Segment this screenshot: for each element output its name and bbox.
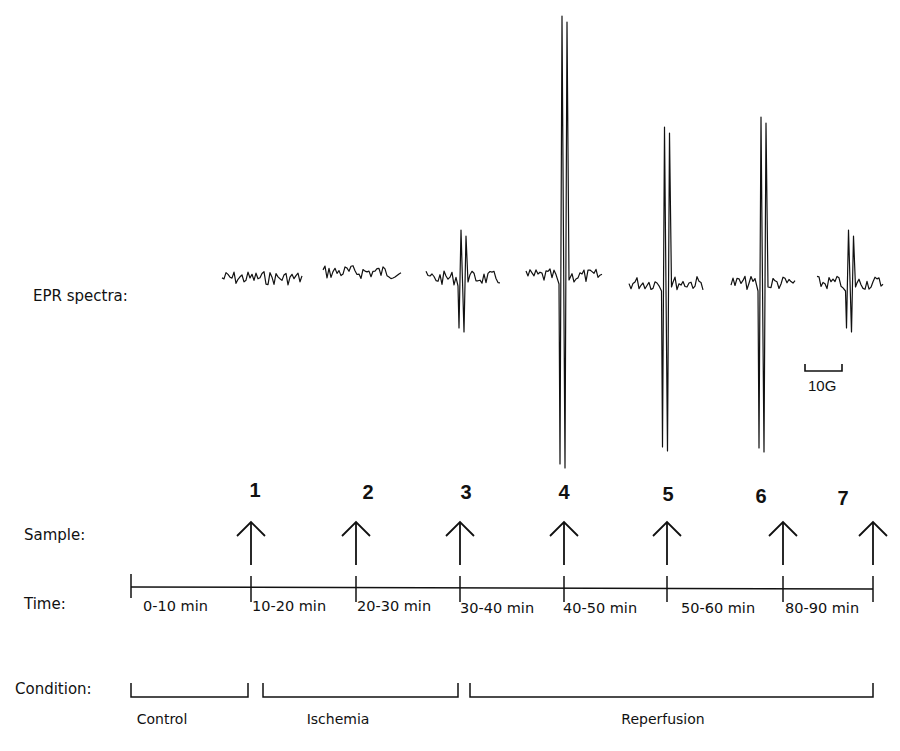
arrow-up-icon — [769, 522, 797, 565]
arrow-up-icon — [342, 522, 370, 565]
arrow-up-icon — [653, 522, 681, 565]
epr-spectrum-6 — [731, 117, 795, 452]
condition-bracket-control — [131, 683, 248, 697]
time-axis — [131, 574, 873, 602]
scale-bar — [805, 364, 842, 371]
condition-bracket-reperfusion — [470, 683, 873, 697]
epr-spectrum-2 — [323, 266, 401, 279]
condition-brackets — [131, 683, 873, 697]
epr-timeline-diagram — [0, 0, 900, 751]
epr-spectrum-7 — [817, 230, 883, 332]
epr-spectrum-4 — [526, 16, 602, 468]
arrow-up-icon — [550, 522, 578, 565]
arrow-up-icon — [859, 522, 887, 565]
arrow-up-icon — [446, 522, 474, 565]
sample-arrows — [237, 522, 887, 565]
arrow-up-icon — [237, 522, 265, 565]
epr-spectrum-5 — [629, 127, 703, 451]
condition-bracket-ischemia — [263, 683, 458, 697]
epr-spectrum-1 — [222, 272, 302, 285]
epr-spectra-group — [222, 16, 883, 468]
epr-spectrum-3 — [426, 230, 500, 332]
